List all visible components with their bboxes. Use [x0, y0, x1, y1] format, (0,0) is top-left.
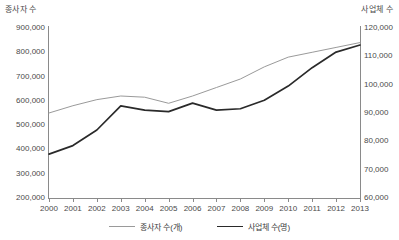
legend-item[interactable]: 종사자 수(개) [109, 221, 183, 232]
series-line-1 [49, 43, 360, 113]
line-chart: 종사자 수 사업체 수 200,000300,000400,000500,000… [0, 0, 399, 240]
chart-legend: 종사자 수(개)사업체 수(명) [0, 221, 399, 232]
series-plot-area [0, 0, 399, 240]
legend-label: 종사자 수(개) [140, 221, 183, 232]
legend-label: 사업체 수(명) [248, 221, 291, 232]
legend-swatch-icon [217, 226, 243, 227]
legend-item[interactable]: 사업체 수(명) [217, 221, 291, 232]
legend-swatch-icon [109, 226, 135, 227]
